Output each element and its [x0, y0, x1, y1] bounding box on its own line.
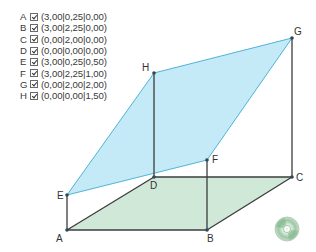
label-d: D	[150, 180, 157, 191]
label-h: H	[142, 62, 149, 73]
point-h[interactable]	[152, 71, 156, 75]
geometry-figure: ABCDEFGH	[0, 0, 316, 252]
point-c[interactable]	[290, 175, 294, 179]
plane-efgh	[67, 38, 292, 195]
point-a[interactable]	[65, 228, 69, 232]
label-e: E	[57, 190, 64, 201]
point-f[interactable]	[205, 158, 209, 162]
point-e[interactable]	[65, 193, 69, 197]
label-a: A	[56, 233, 63, 244]
cd-disc-icon[interactable]	[275, 217, 299, 241]
point-d[interactable]	[152, 175, 156, 179]
label-f: F	[212, 154, 218, 165]
point-b[interactable]	[205, 228, 209, 232]
label-g: G	[294, 26, 302, 37]
label-c: C	[296, 172, 303, 183]
label-b: B	[207, 233, 214, 244]
